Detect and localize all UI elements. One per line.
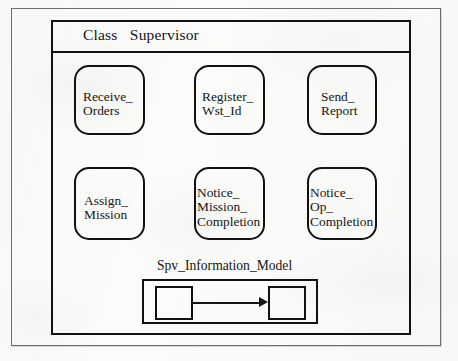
operation-label-register-wst-id: Register_ Wst_Id xyxy=(202,90,253,119)
class-title: Class Supervisor xyxy=(83,26,199,44)
information-model-node-left xyxy=(155,286,193,320)
operation-box-assign-mission: Assign_ Mission xyxy=(74,167,145,240)
information-model-relation-line xyxy=(193,302,261,304)
operation-box-register-wst-id: Register_ Wst_Id xyxy=(194,65,265,135)
operation-box-receive-orders: Receive_ Orders xyxy=(74,65,145,135)
operation-box-notice-mission-completion: Notice_ Mission_ Completion xyxy=(194,167,265,240)
operation-label-send-report: Send_ Report xyxy=(321,90,357,119)
operation-label-notice-op-completion: Notice_ Op_ Completion xyxy=(310,186,373,229)
operation-box-send-report: Send_ Report xyxy=(307,65,377,135)
operation-box-notice-op-completion: Notice_ Op_ Completion xyxy=(307,167,377,240)
information-model-node-right xyxy=(268,286,306,320)
operation-label-receive-orders: Receive_ Orders xyxy=(83,90,133,119)
information-model-arrowhead-icon xyxy=(259,297,268,307)
diagram-canvas: Class Supervisor Receive_ Orders Registe… xyxy=(0,0,458,361)
operation-label-assign-mission: Assign_ Mission xyxy=(84,194,128,223)
information-model-title: Spv_Information_Model xyxy=(157,258,292,274)
operation-label-notice-mission-completion: Notice_ Mission_ Completion xyxy=(197,186,260,229)
